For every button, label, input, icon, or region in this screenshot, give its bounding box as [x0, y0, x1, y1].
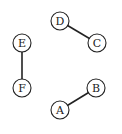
nodes: ABCDEF — [13, 12, 106, 119]
node-C: C — [88, 34, 106, 52]
node-E: E — [13, 34, 31, 52]
node-A: A — [51, 101, 69, 119]
node-B: B — [87, 79, 105, 97]
node-label: A — [55, 104, 65, 117]
node-label: B — [92, 82, 100, 95]
node-label: E — [18, 37, 26, 50]
edges — [22, 21, 97, 110]
node-label: D — [56, 15, 65, 28]
graph-diagram: ABCDEF — [0, 0, 122, 134]
node-F: F — [13, 79, 31, 97]
node-label: F — [18, 82, 26, 95]
node-label: C — [93, 37, 101, 50]
node-D: D — [51, 12, 69, 30]
